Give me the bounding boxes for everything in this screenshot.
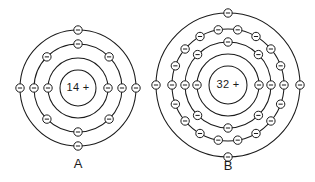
atom-a: 14 + (16, 26, 140, 150)
electron (105, 115, 113, 123)
electron (252, 129, 260, 137)
atom-labels-layer: AB (74, 156, 233, 173)
electron (43, 53, 51, 61)
electron (168, 81, 176, 89)
electron (255, 81, 263, 89)
nucleus-charge-label: 14 + (67, 81, 90, 93)
atom-label-b: B (224, 158, 233, 173)
electron (193, 111, 201, 119)
electron (254, 111, 262, 119)
electron (181, 117, 189, 125)
electron (267, 81, 275, 89)
electron (74, 26, 82, 34)
atomic-models-figure: 14 +32 + AB (0, 0, 315, 182)
electron (74, 128, 82, 136)
atoms-layer: 14 +32 + (16, 9, 304, 161)
electron (196, 32, 204, 40)
electron (16, 84, 24, 92)
atom-label-a: A (74, 156, 83, 171)
electron (152, 81, 160, 89)
electron (252, 32, 260, 40)
electron (104, 84, 112, 92)
electron (267, 45, 275, 53)
electron (234, 26, 242, 34)
electron (171, 62, 179, 70)
electron (193, 81, 201, 89)
nucleus-charge-label: 32 + (217, 78, 240, 90)
electron (74, 142, 82, 150)
electron (74, 40, 82, 48)
electron (280, 81, 288, 89)
electron (224, 38, 232, 46)
electron (193, 50, 201, 58)
electron (132, 84, 140, 92)
electron (44, 84, 52, 92)
electron (181, 81, 189, 89)
diagram-canvas: 14 +32 + AB (0, 0, 315, 182)
electron (118, 84, 126, 92)
electron (30, 84, 38, 92)
atom-b: 32 + (152, 9, 304, 161)
electron (276, 100, 284, 108)
electron (234, 136, 242, 144)
electron (267, 117, 275, 125)
electron (254, 50, 262, 58)
electron (214, 136, 222, 144)
electron (224, 9, 232, 17)
electron (181, 45, 189, 53)
electron (214, 26, 222, 34)
electron (224, 124, 232, 132)
electron (105, 53, 113, 61)
electron (296, 81, 304, 89)
electron (276, 62, 284, 70)
electron (43, 115, 51, 123)
electron (171, 100, 179, 108)
electron (196, 129, 204, 137)
